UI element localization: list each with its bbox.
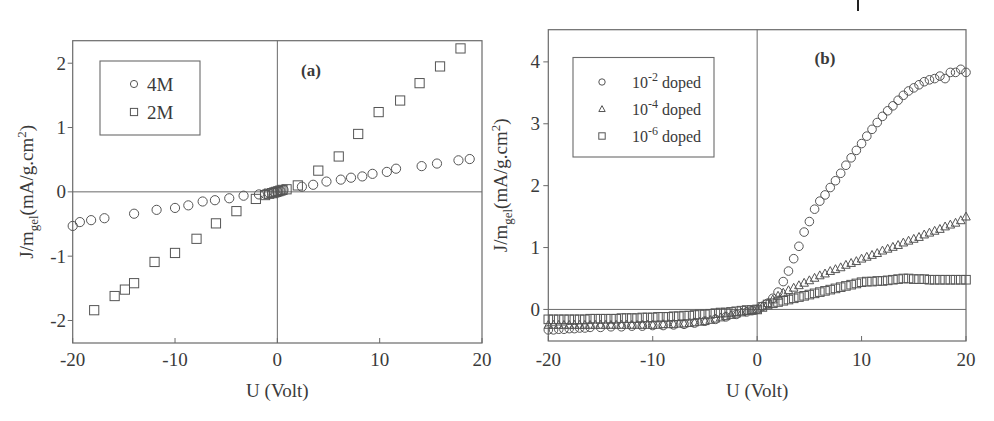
y-axis-label: J/mgel(mA/g.cm2) <box>14 125 41 259</box>
data-point-square <box>873 277 882 286</box>
data-point-circle <box>878 112 887 121</box>
data-point-square <box>862 277 871 286</box>
legend-label: 4M <box>147 74 174 95</box>
data-point-circle <box>810 205 819 214</box>
data-point-square <box>607 314 616 323</box>
data-point-circle <box>225 194 234 203</box>
data-point-circle <box>836 169 845 178</box>
y-tick-label: 2 <box>531 175 541 196</box>
data-point-circle <box>936 72 945 81</box>
data-point-circle <box>309 180 318 189</box>
data-point-square <box>565 315 574 324</box>
data-point-square <box>575 315 584 324</box>
x-tick-label: 0 <box>752 349 762 370</box>
data-point-circle <box>889 102 898 111</box>
data-point-circle <box>842 161 851 170</box>
data-point-square <box>554 315 563 324</box>
legend: 10-2 doped10-4 doped10-6 doped <box>573 58 714 158</box>
data-point-square <box>396 96 405 105</box>
data-point-square <box>586 314 595 323</box>
data-point-circle <box>857 139 866 148</box>
data-point-square <box>110 291 119 300</box>
x-tick-label: -20 <box>60 349 85 370</box>
data-point-square <box>192 234 201 243</box>
data-point-square <box>930 275 939 284</box>
data-point-square <box>956 275 965 284</box>
data-point-circle <box>789 254 798 263</box>
data-point-circle <box>87 216 96 225</box>
data-point-circle <box>894 96 903 105</box>
data-point-circle <box>930 74 939 83</box>
data-point-circle <box>454 156 463 165</box>
data-point-square <box>706 309 715 318</box>
data-point-square <box>415 79 424 88</box>
data-point-circle <box>800 228 809 237</box>
y-tick-label: 2 <box>57 53 67 74</box>
legend-box <box>100 61 200 135</box>
data-point-square <box>374 107 383 116</box>
data-point-circle <box>152 205 161 214</box>
data-point-square <box>232 207 241 216</box>
data-point-circle <box>322 177 331 186</box>
y-tick-label: 4 <box>531 51 541 72</box>
data-point-square <box>925 275 934 284</box>
data-point-circle <box>847 154 856 163</box>
data-point-circle <box>210 196 219 205</box>
data-point-square <box>915 275 924 284</box>
legend-label: 10-2 doped <box>632 70 701 92</box>
series-4m <box>68 154 474 230</box>
data-point-circle <box>805 217 814 226</box>
x-tick-label: 0 <box>273 349 283 370</box>
data-point-square <box>596 314 605 323</box>
data-point-square <box>90 306 99 315</box>
panel-label: (b) <box>815 49 836 68</box>
data-point-circle <box>831 176 840 185</box>
x-tick-label: 10 <box>370 349 389 370</box>
data-point-square <box>581 315 590 324</box>
data-point-circle <box>184 201 193 210</box>
panel-a-chart: -20-1001020-2-1012U (Volt)J/mgel(mA/g.cm… <box>14 41 492 402</box>
chart-canvas: -20-1001020-2-1012U (Volt)J/mgel(mA/g.cm… <box>0 0 994 421</box>
legend-label: 2M <box>147 102 174 123</box>
data-point-square <box>868 277 877 286</box>
data-point-circle <box>170 203 179 212</box>
data-point-square <box>601 314 610 323</box>
x-tick-label: -10 <box>640 349 665 370</box>
data-point-circle <box>821 191 830 200</box>
data-point-circle <box>883 106 892 115</box>
data-point-square <box>899 274 908 283</box>
data-point-square <box>314 166 323 175</box>
x-tick-label: 10 <box>852 349 871 370</box>
legend-label: 10-4 doped <box>632 97 701 119</box>
data-point-circle <box>198 197 207 206</box>
data-point-square <box>211 219 220 228</box>
y-tick-label: -2 <box>50 310 66 331</box>
data-point-circle <box>336 175 345 184</box>
y-tick-label: 1 <box>57 117 67 138</box>
x-tick-label: 20 <box>957 349 976 370</box>
y-tick-label: 3 <box>531 113 541 134</box>
data-point-square <box>150 257 159 266</box>
data-point-circle <box>346 173 355 182</box>
data-point-square <box>354 129 363 138</box>
data-point-square <box>334 152 343 161</box>
panel-label: (a) <box>301 61 321 80</box>
x-tick-label: -10 <box>162 349 187 370</box>
data-point-square <box>883 276 892 285</box>
y-axis-label: J/mgel(mA/g.cm2) <box>488 118 515 252</box>
x-tick-label: 20 <box>473 349 492 370</box>
data-point-circle <box>382 167 391 176</box>
data-point-square <box>560 315 569 324</box>
panel-b-chart: -20-100102001234U (Volt)J/mgel(mA/g.cm2)… <box>488 30 976 402</box>
data-point-square <box>612 314 621 323</box>
y-tick-label: 1 <box>531 237 541 258</box>
data-point-circle <box>432 159 441 168</box>
data-point-square <box>591 314 600 323</box>
data-point-circle <box>239 191 248 200</box>
data-point-square <box>120 285 129 294</box>
data-point-square <box>435 62 444 71</box>
data-point-circle <box>100 214 109 223</box>
data-point-square <box>894 275 903 284</box>
data-point-circle <box>795 242 804 251</box>
data-point-square <box>889 275 898 284</box>
